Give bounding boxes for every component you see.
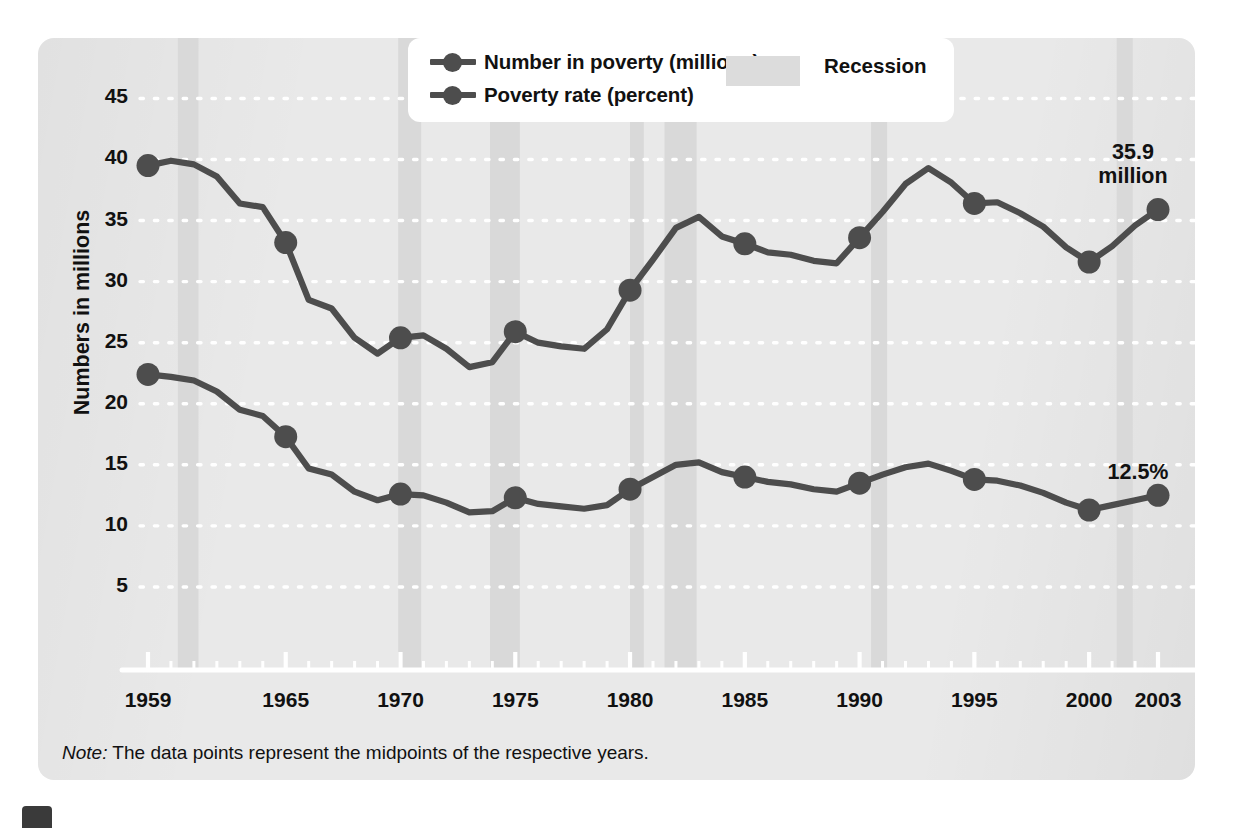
series-data-point [1078, 251, 1101, 274]
legend-label-poverty-rate: Poverty rate (percent) [484, 83, 694, 107]
x-axis-tick-label: 1995 [934, 688, 1014, 712]
x-axis-tick-label: 1975 [475, 688, 555, 712]
y-axis-tick-label: 10 [82, 512, 128, 536]
series-data-point [137, 363, 160, 386]
x-axis-tick-label: 1970 [361, 688, 441, 712]
legend-label-number-in-poverty: Number in poverty (millions) [484, 50, 759, 74]
legend-marker-line-dot-icon [430, 85, 476, 105]
series-data-point [848, 472, 871, 495]
poverty-chart-figure: 45403530252015105 Numbers in millions 19… [0, 0, 1234, 828]
y-axis-tick-label: 40 [82, 145, 128, 169]
series-data-point [137, 154, 160, 177]
series-line [148, 374, 1158, 512]
x-axis-tick-label: 1985 [705, 688, 785, 712]
y-axis-tick-label: 5 [82, 573, 128, 597]
legend-marker-line-dot-icon [430, 52, 476, 72]
series-data-point [274, 425, 297, 448]
page-corner-mark-icon [22, 806, 52, 828]
y-axis-title: Numbers in millions [70, 193, 95, 433]
chart-legend: Number in poverty (millions) Poverty rat… [408, 38, 954, 122]
x-axis-tick-label: 1965 [246, 688, 326, 712]
x-axis-tick-label: 2003 [1118, 688, 1198, 712]
legend-item-poverty-rate[interactable]: Poverty rate (percent) [430, 83, 694, 107]
recession-band [664, 38, 696, 670]
series-data-point [1147, 198, 1170, 221]
x-axis-tick-label: 1959 [108, 688, 188, 712]
series-data-point [619, 279, 642, 302]
legend-item-number-in-poverty[interactable]: Number in poverty (millions) [430, 50, 759, 74]
series-data-point [963, 468, 986, 491]
series-data-point [504, 486, 527, 509]
series-line [148, 161, 1158, 367]
recession-band [1117, 38, 1133, 670]
x-axis-tick-label: 1990 [820, 688, 900, 712]
annotation-number-in-poverty: 35.9 million [1078, 140, 1188, 188]
annotation-rate-value: 12.5% [1088, 460, 1188, 484]
chart-note-text: The data points represent the midpoints … [107, 742, 648, 763]
legend-label-recession: Recession [824, 54, 927, 78]
recession-band [490, 38, 520, 670]
y-axis-tick-label: 45 [82, 84, 128, 108]
recession-band [871, 38, 887, 670]
recession-band [178, 38, 199, 670]
chart-note-prefix: Note: [62, 742, 107, 763]
series-data-point [619, 478, 642, 501]
chart-note: Note: The data points represent the midp… [62, 742, 649, 764]
series-data-point [389, 483, 412, 506]
x-axis-tick-label: 1980 [590, 688, 670, 712]
series-data-point [733, 466, 756, 489]
annotation-number-value: 35.9 [1078, 140, 1188, 164]
series-data-point [504, 320, 527, 343]
series-data-point [848, 226, 871, 249]
annotation-poverty-rate: 12.5% [1088, 460, 1188, 484]
series-data-point [1078, 498, 1101, 521]
series-data-point [1147, 484, 1170, 507]
series-data-point [274, 231, 297, 254]
recession-band [630, 38, 644, 670]
y-axis-tick-label: 15 [82, 451, 128, 475]
series-data-point [963, 192, 986, 215]
annotation-number-unit: million [1078, 164, 1188, 188]
chart-plot-area [38, 38, 1195, 698]
series-data-point [733, 232, 756, 255]
recession-band [398, 38, 421, 670]
series-data-point [389, 326, 412, 349]
legend-swatch-recession [726, 56, 800, 86]
